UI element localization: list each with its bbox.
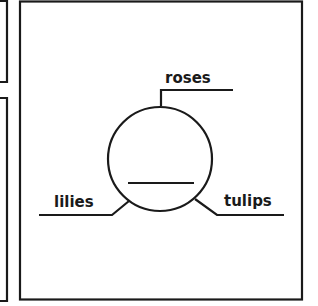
- roses-label: roses: [165, 69, 211, 87]
- left-panel-bottom-edge: [0, 98, 7, 301]
- roses-leader-line: [161, 90, 233, 106]
- diagram-canvas: roses lilies tulips: [0, 0, 318, 306]
- left-panel-top-edge: [0, 1, 7, 82]
- lilies-label: lilies: [54, 193, 94, 211]
- central-circle: [108, 107, 212, 211]
- tulips-label: tulips: [224, 192, 272, 210]
- main-panel-frame: [20, 2, 302, 300]
